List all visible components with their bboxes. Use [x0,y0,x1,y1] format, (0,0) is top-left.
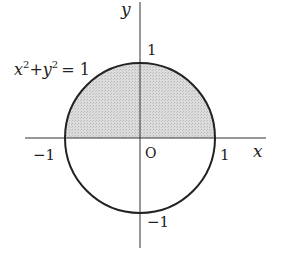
origin-label: O [145,145,156,161]
y-axis-label: y [120,0,131,19]
tick-y-pos: 1 [147,41,157,59]
tick-x-neg: −1 [33,146,55,164]
unit-circle-diagram: y x O 1 1 −1 −1 x2+y2= 1 [0,0,282,255]
circle-equation-label: x2+y2= 1 [14,59,90,79]
tick-y-neg: −1 [147,213,169,231]
x-axis-label: x [253,141,263,161]
tick-x-pos: 1 [220,146,230,164]
